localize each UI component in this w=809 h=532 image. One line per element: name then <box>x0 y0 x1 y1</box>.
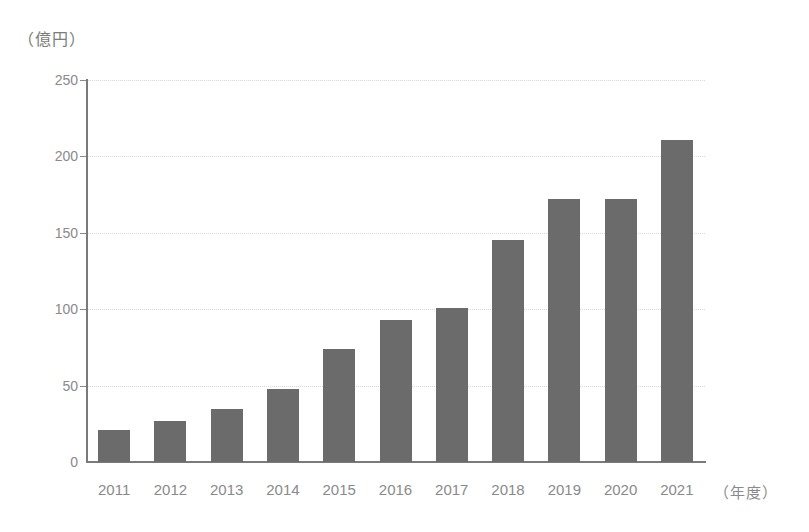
x-tick-label-2013: 2013 <box>210 481 243 498</box>
x-tick-label-2011: 2011 <box>98 481 130 498</box>
x-tick-label-2015: 2015 <box>323 481 356 498</box>
y-tick-label-150: 150 <box>55 225 78 241</box>
bar-2016 <box>380 320 412 462</box>
x-tick-label-2016: 2016 <box>379 481 412 498</box>
bar-2021 <box>661 140 693 462</box>
bar-2011 <box>98 430 130 462</box>
x-tick-label-2020: 2020 <box>604 481 637 498</box>
x-tick-label-2017: 2017 <box>435 481 468 498</box>
x-axis-unit-label: （年度） <box>714 481 778 502</box>
bar-chart: （億円） 050100150200250 2011201220132014201… <box>0 0 809 532</box>
x-tick-label-2021: 2021 <box>660 481 693 498</box>
x-tick-label-2019: 2019 <box>548 481 581 498</box>
bar-2012 <box>154 421 186 462</box>
y-axis-tick-labels: 050100150200250 <box>0 0 78 532</box>
bar-2017 <box>436 308 468 462</box>
bar-2018 <box>492 240 524 462</box>
y-tick-label-250: 250 <box>55 72 78 88</box>
bars-layer <box>86 80 705 462</box>
bar-2013 <box>211 409 243 462</box>
y-tick-label-200: 200 <box>55 148 78 164</box>
bar-2020 <box>605 199 637 462</box>
bar-2014 <box>267 389 299 462</box>
y-tick-label-100: 100 <box>55 301 78 317</box>
y-tick-label-0: 0 <box>70 454 78 470</box>
bar-2015 <box>323 349 355 462</box>
x-tick-label-2012: 2012 <box>154 481 187 498</box>
x-tick-label-2018: 2018 <box>491 481 524 498</box>
x-tick-label-2014: 2014 <box>266 481 299 498</box>
bar-2019 <box>548 199 580 462</box>
y-tick-label-50: 50 <box>62 378 78 394</box>
